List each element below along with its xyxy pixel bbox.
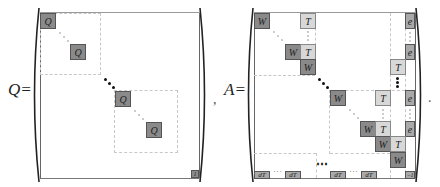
- a-ellipsis-dot: [353, 113, 355, 115]
- a-vdot: [409, 113, 411, 115]
- a-w-block: W: [254, 13, 270, 29]
- q-label: Q=: [8, 80, 32, 100]
- a-vdot: [409, 32, 411, 34]
- a-vdot: [409, 40, 411, 42]
- a-left-paren: [244, 8, 254, 182]
- a-right-paren: [415, 8, 425, 182]
- a-e-block: e: [405, 90, 415, 106]
- q-trailing-comma: ,: [213, 92, 217, 108]
- a-dt-block: dT: [285, 171, 301, 179]
- q-block-3: Q: [115, 91, 131, 107]
- a-w-block: W: [330, 90, 346, 106]
- a-ellipsis-dark: [326, 86, 329, 89]
- a-w-block: W: [285, 44, 301, 60]
- a-hellipsis-dark: ⋯: [316, 157, 328, 171]
- a-ellipsis-dot: [349, 109, 351, 111]
- a-t-block: T: [375, 121, 391, 137]
- q-corner-block: 1: [191, 170, 199, 178]
- a-vellipsis-dark: [396, 81, 399, 84]
- a-t-block: T: [390, 59, 406, 75]
- q-ellipsis-dot: [67, 40, 69, 42]
- a-vellipsis-dark: [396, 85, 399, 88]
- a-w-block: W: [360, 121, 376, 137]
- q-ellipsis-dot: [138, 114, 140, 116]
- q-ellipsis-dot: [59, 32, 61, 34]
- q-ellipsis-dark: [112, 86, 115, 89]
- a-t-block: T: [375, 90, 391, 106]
- a-dt-block: dT: [361, 171, 377, 179]
- a-w-block: W: [375, 136, 391, 152]
- a-t-block: T: [300, 13, 316, 29]
- a-w-block: W: [390, 152, 406, 168]
- a-partition-h: [254, 75, 315, 76]
- a-w-block: W: [300, 59, 316, 75]
- a-vdot: [409, 36, 411, 38]
- a-e-block: e: [405, 121, 415, 137]
- a-vdot: [382, 113, 384, 115]
- a-partition-h: [254, 153, 316, 154]
- a-e-block: e: [405, 44, 415, 60]
- a-dt-block: dT: [330, 171, 346, 179]
- q-block-2: Q: [70, 44, 86, 60]
- q-ellipsis-dot: [63, 36, 65, 38]
- a-vdot: [382, 117, 384, 119]
- q-block-4: Q: [146, 122, 162, 138]
- q-ellipsis-dark: [108, 82, 111, 85]
- a-vdot: [382, 109, 384, 111]
- q-left-paren: [30, 8, 40, 182]
- a-e-block: e: [405, 13, 415, 29]
- q-block-1: Q: [40, 13, 56, 29]
- q-right-paren: [199, 8, 209, 182]
- a-vdot: [307, 39, 309, 41]
- a-ellipsis-dark: [318, 78, 321, 81]
- a-partition-h: [330, 153, 390, 154]
- q-ellipsis-dot: [134, 110, 136, 112]
- a-hellipsis: ⋯: [273, 167, 282, 177]
- a-label: A=: [224, 80, 246, 100]
- a-ellipsis-dot: [357, 117, 359, 119]
- a-trailing-period: .: [428, 90, 432, 106]
- a-ellipsis-dot: [277, 35, 279, 37]
- q-ellipsis-dark: [104, 78, 107, 81]
- a-ellipsis-dark: [322, 82, 325, 85]
- a-hellipsis: ⋯: [349, 167, 358, 177]
- a-vdot: [307, 31, 309, 33]
- a-corner-block: −1: [405, 171, 415, 179]
- a-ellipsis-dot: [281, 39, 283, 41]
- a-t-block: T: [390, 136, 406, 152]
- a-ellipsis-dot: [273, 31, 275, 33]
- a-vdot: [409, 117, 411, 119]
- a-vdot: [307, 35, 309, 37]
- q-ellipsis-dot: [142, 118, 144, 120]
- a-vellipsis-dark: [396, 77, 399, 80]
- a-vdot: [409, 109, 411, 111]
- a-dt-block: dT: [254, 171, 270, 179]
- a-t-block: T: [300, 44, 316, 60]
